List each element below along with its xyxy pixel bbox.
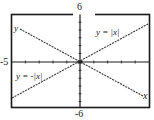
x-min-label: -5	[0, 57, 8, 67]
y-abs-x-label: y = |x|	[96, 28, 120, 37]
y-end-label: y	[14, 24, 18, 33]
graph-window	[0, 0, 154, 120]
x-end-label: x	[143, 91, 147, 101]
y-max-label: 6	[77, 2, 82, 12]
y-min-label: -6	[75, 109, 83, 119]
y-neg-abs-x-label: y = -|x|	[16, 72, 43, 81]
frame-top-gap	[73, 12, 95, 17]
